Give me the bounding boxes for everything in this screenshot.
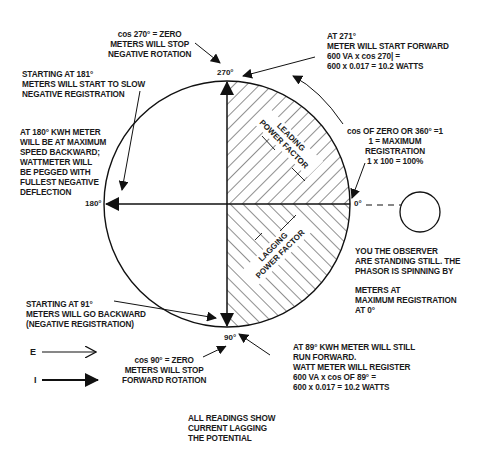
- annotation-start91: STARTING AT 91° METERS WILL GO BACKWARD …: [26, 300, 146, 330]
- leader-181: [122, 91, 140, 190]
- annotation-cos270: cos 270° = ZERO METERS WILL STOP NEGATIV…: [108, 30, 191, 60]
- annotation-start181: STARTING AT 181° METERS WILL START TO SL…: [22, 70, 145, 100]
- annotation-meters-max: METERS AT MAXIMUM REGISTRATION AT 0°: [355, 286, 457, 316]
- leader-89: [239, 334, 270, 355]
- annotation-all-readings: ALL READINGS SHOW CURRENT LAGGING THE PO…: [188, 414, 275, 444]
- annotation-observer: YOU THE OBSERVER ARE STANDING STILL. THE…: [355, 247, 460, 277]
- legend-i-label: I: [34, 375, 36, 385]
- leader-at271: [243, 57, 315, 76]
- annotation-at180: AT 180° KWH METER WILL BE AT MAXIMUM SPE…: [20, 128, 106, 198]
- angle-label-180: 180°: [85, 199, 102, 208]
- legend-e-label: E: [30, 347, 36, 357]
- annotation-cos0: cos OF ZERO OR 360° =1 1 = MAXIMUM REGIS…: [347, 127, 443, 167]
- annotation-cos90: cos 90° = ZERO METERS WILL STOP FORWARD …: [122, 356, 206, 386]
- annotation-at89: AT 89° KWH METER WILL STILL RUN FORWARD.…: [293, 343, 415, 393]
- leader-cos90: [203, 346, 226, 357]
- angle-label-90: 90°: [224, 333, 236, 342]
- annotation-at271: AT 271° METER WILL START FORWARD 600 VA …: [327, 32, 449, 72]
- leader-cos270: [195, 43, 220, 63]
- angle-label-270: 270°: [217, 68, 234, 77]
- angle-label-0: 0°: [354, 199, 362, 208]
- leader-cos0: [352, 163, 365, 198]
- observer-circle: [400, 192, 440, 232]
